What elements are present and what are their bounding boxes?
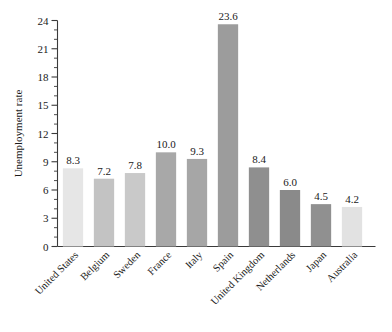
- bar-value-label: 4.5: [314, 190, 328, 202]
- bar-value-label: 7.8: [128, 159, 142, 171]
- bar: [94, 179, 114, 247]
- y-axis-title-text: Unemployment rate: [12, 90, 24, 178]
- bar-value-labels: 8.37.27.810.09.323.68.46.04.54.2: [66, 10, 359, 205]
- y-tick-label: 3: [43, 212, 49, 224]
- bar-value-label: 8.3: [66, 154, 80, 166]
- category-labels: United StatesBelgiumSwedenFranceItalySpa…: [33, 249, 360, 307]
- y-axis-title: Unemployment rate: [12, 90, 24, 178]
- bar: [218, 24, 238, 246]
- bar: [280, 190, 300, 247]
- category-label: France: [145, 249, 173, 277]
- bar-value-label: 6.0: [283, 176, 297, 188]
- category-label: Spain: [211, 249, 236, 274]
- bar-value-label: 7.2: [97, 165, 111, 177]
- bar-value-label: 8.4: [252, 153, 266, 165]
- bar-value-label: 10.0: [156, 138, 176, 150]
- bars-series: [63, 24, 362, 246]
- bar: [125, 173, 145, 246]
- bar-value-label: 23.6: [218, 10, 238, 22]
- bar-value-label: 9.3: [190, 145, 204, 157]
- unemployment-rate-bar-chart: 03691215182124 8.37.27.810.09.323.68.46.…: [0, 0, 392, 332]
- y-tick-label: 18: [38, 71, 50, 83]
- y-tick-label: 24: [38, 15, 50, 27]
- y-tick-label: 12: [38, 128, 49, 140]
- category-label: Belgium: [78, 249, 111, 282]
- bar: [249, 167, 269, 246]
- y-tick-label: 0: [43, 241, 49, 253]
- category-label: Sweden: [111, 249, 143, 281]
- category-label: Australia: [324, 249, 359, 284]
- y-tick-label: 15: [38, 99, 50, 111]
- y-tick-label: 9: [43, 156, 49, 168]
- category-label: United Kingdom: [209, 249, 267, 307]
- category-label: Italy: [183, 249, 205, 271]
- bar: [187, 159, 207, 247]
- bar: [342, 207, 362, 247]
- bar: [311, 204, 331, 246]
- category-label: United States: [33, 249, 81, 297]
- y-tick-label: 21: [38, 43, 49, 55]
- y-tick-label: 6: [43, 184, 49, 196]
- bar: [63, 168, 83, 246]
- y-axis: 03691215182124: [38, 15, 58, 253]
- bar-value-label: 4.2: [345, 193, 359, 205]
- category-label: Japan: [304, 249, 329, 274]
- chart-canvas: 03691215182124 8.37.27.810.09.323.68.46.…: [0, 0, 392, 332]
- bar: [156, 152, 176, 246]
